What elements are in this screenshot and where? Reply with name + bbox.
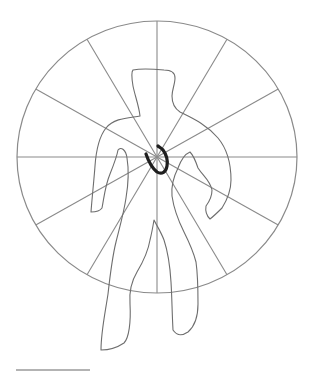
target-diagram — [0, 0, 310, 372]
spoke-30deg — [157, 89, 278, 157]
spoke-330deg — [157, 157, 278, 225]
target-spokes — [17, 21, 297, 293]
spoke-300deg — [157, 157, 227, 275]
body-outline — [91, 69, 231, 350]
spoke-210deg — [36, 157, 157, 225]
spoke-120deg — [87, 39, 157, 157]
spoke-60deg — [157, 39, 227, 157]
spoke-150deg — [36, 89, 157, 157]
